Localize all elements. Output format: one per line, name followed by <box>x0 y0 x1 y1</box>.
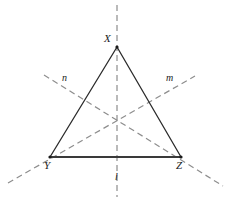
vertex-label-y: Y <box>44 160 50 171</box>
axis-label-m: m <box>166 73 173 83</box>
vertex-point-X <box>115 45 118 48</box>
axis-label-n: n <box>62 73 67 83</box>
geometry-figure: X Y Z n m l <box>0 0 229 204</box>
axis-n <box>44 75 223 186</box>
vertex-label-z: Z <box>176 160 182 171</box>
axis-m <box>8 76 195 183</box>
vertex-label-x: X <box>104 33 111 44</box>
triangle-side-XY <box>50 47 117 157</box>
axis-label-l: l <box>115 172 118 182</box>
